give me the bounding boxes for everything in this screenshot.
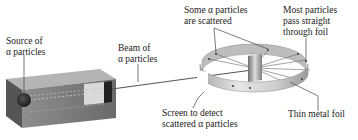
label-scattered: Some α particles are scattered bbox=[184, 5, 248, 27]
alpha-source-icon bbox=[17, 93, 31, 107]
rutherford-diagram: Source of α particles Beam of α particle… bbox=[0, 0, 358, 140]
label-beam: Beam of α particles bbox=[118, 43, 158, 65]
detector-ring bbox=[197, 44, 310, 92]
label-straight-through: Most particles pass straight through foi… bbox=[283, 5, 337, 38]
source-box bbox=[6, 69, 116, 128]
label-source: Source of α particles bbox=[6, 36, 46, 58]
label-screen: Screen to detect scattered α particles bbox=[162, 108, 238, 130]
label-foil: Thin metal foil bbox=[288, 109, 345, 120]
metal-foil bbox=[248, 54, 262, 82]
